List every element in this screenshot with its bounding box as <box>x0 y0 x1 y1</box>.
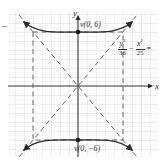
vertex-bottom-point <box>76 138 81 143</box>
plot-canvas <box>0 0 167 163</box>
hyperbola-figure: y x v(0, 6) v(0, −6) y2 36 − x2 25 = <box>0 0 167 163</box>
grid-background <box>9 11 158 157</box>
vertex-top-point <box>76 30 81 35</box>
